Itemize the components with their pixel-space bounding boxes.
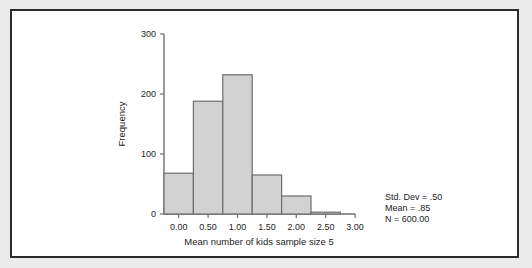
x-axis-tick-label: 0.50 <box>199 222 217 232</box>
histogram-bar <box>193 101 222 214</box>
std-dev-annotation: Std. Dev = .50 <box>385 192 442 202</box>
x-axis-tick-label: 2.50 <box>317 222 335 232</box>
y-axis-tick-label: 0 <box>151 209 156 219</box>
x-axis-tick-label: 1.00 <box>229 222 247 232</box>
histogram-bars <box>164 75 340 214</box>
histogram-bar <box>223 75 252 214</box>
page-background: 0100200300 0.000.501.001.502.002.503.00 … <box>0 0 532 268</box>
x-axis-tick-label: 2.00 <box>288 222 306 232</box>
x-axis-tick-labels: 0.000.501.001.502.002.503.00 <box>170 222 364 232</box>
x-axis-tick-label: 3.00 <box>346 222 364 232</box>
x-axis-tick-label: 1.50 <box>258 222 276 232</box>
n-value: = 600.00 <box>392 214 430 224</box>
y-axis-tick-label: 300 <box>141 29 156 39</box>
y-axis-title: Frequency <box>116 101 127 146</box>
chart-canvas: 0100200300 0.000.501.001.502.002.503.00 … <box>12 11 517 256</box>
histogram-bar <box>252 175 281 214</box>
figure-frame: 0100200300 0.000.501.001.502.002.503.00 … <box>10 9 519 258</box>
mean-annotation: Mean = .85 <box>385 203 430 213</box>
histogram-bar <box>282 196 311 214</box>
histogram-plot: 0100200300 0.000.501.001.502.002.503.00 … <box>12 11 517 256</box>
x-axis-tick-label: 0.00 <box>170 222 188 232</box>
y-axis-tick-label: 100 <box>141 149 156 159</box>
y-axis-tick-label: 200 <box>141 89 156 99</box>
n-annotation: N = 600.00 <box>385 214 429 224</box>
y-axis-tick-labels: 0100200300 <box>141 29 156 219</box>
histogram-bar <box>164 173 193 214</box>
x-axis-title: Mean number of kids sample size 5 <box>184 236 333 247</box>
histogram-bar <box>311 212 340 214</box>
